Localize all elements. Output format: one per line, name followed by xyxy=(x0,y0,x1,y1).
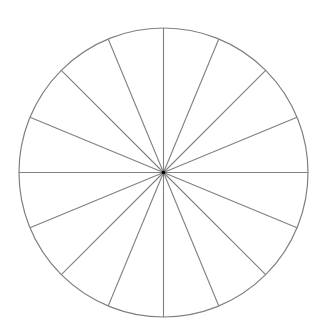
spoke-line xyxy=(164,70,266,172)
spoke-line xyxy=(61,173,163,275)
center-point xyxy=(162,171,166,175)
spoke-line xyxy=(164,173,266,275)
spoke-line xyxy=(61,70,163,172)
segmented-circle-diagram xyxy=(0,0,327,332)
